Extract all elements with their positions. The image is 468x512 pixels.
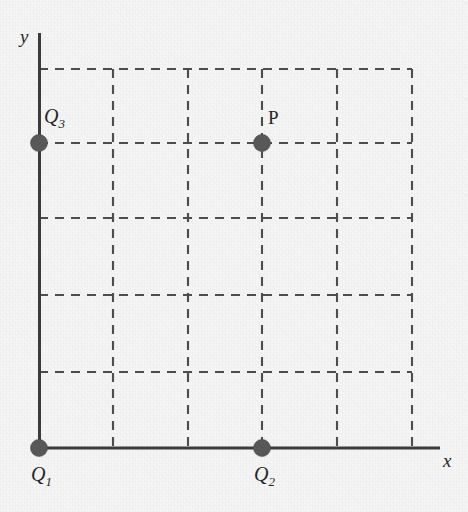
y-axis-label: y (20, 27, 28, 46)
grid-vertical-lines (113, 69, 412, 448)
x-axis-label: x (443, 451, 451, 470)
charge-dot-q3 (31, 135, 48, 152)
physics-coordinate-figure: y x Q1 Q2 Q3 P (0, 0, 468, 512)
charge-label-q1-letter: Q (31, 463, 45, 485)
charge-dot-q2 (254, 440, 271, 457)
charge-label-q1: Q1 (31, 464, 52, 488)
charge-label-q1-subscript: 1 (45, 474, 52, 489)
coordinate-plot (0, 0, 468, 512)
field-point-label-p: P (268, 108, 279, 127)
grid-horizontal-lines (39, 69, 412, 372)
charge-label-q2: Q2 (254, 464, 275, 488)
charge-label-q3: Q3 (44, 106, 65, 130)
charge-dot-q1 (31, 440, 48, 457)
charge-label-q2-letter: Q (254, 463, 268, 485)
charge-label-q2-subscript: 2 (268, 474, 275, 489)
field-point-dot-p (254, 135, 271, 152)
charge-label-q3-subscript: 3 (58, 116, 65, 131)
charge-label-q3-letter: Q (44, 105, 58, 127)
